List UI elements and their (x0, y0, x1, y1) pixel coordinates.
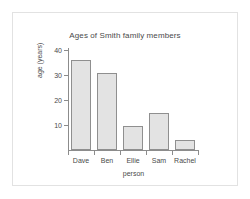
bar-rachel (175, 140, 195, 150)
y-tick-mark-10 (64, 125, 69, 126)
x-axis-title: person (68, 170, 199, 177)
y-tick-mark-30 (64, 75, 69, 76)
x-tick-mark-4 (172, 150, 173, 155)
bar-ben (97, 73, 117, 151)
y-tick-label-20-wrap: 20 (34, 97, 62, 104)
bar-ellie (123, 126, 143, 150)
x-tick-mark-5 (198, 150, 199, 155)
x-tick-mark-1 (94, 150, 95, 155)
y-axis-title: age (years) (36, 18, 43, 78)
y-tick-label-20: 20 (36, 97, 62, 104)
x-tick-mark-3 (146, 150, 147, 155)
bar-sam (149, 113, 169, 151)
x-tick-mark-2 (120, 150, 121, 155)
y-tick-mark-20 (64, 100, 69, 101)
bar-dave (71, 60, 91, 150)
x-tick-mark-0 (68, 150, 69, 155)
x-label-rachel: Rachel (167, 157, 203, 165)
x-axis-line (68, 150, 199, 151)
chart-figure: Ages of Smith family members 10 20 30 40… (0, 0, 250, 199)
y-tick-mark-40 (64, 50, 69, 51)
y-tick-label-10-wrap: 10 (34, 122, 62, 129)
y-tick-label-10: 10 (36, 122, 62, 129)
